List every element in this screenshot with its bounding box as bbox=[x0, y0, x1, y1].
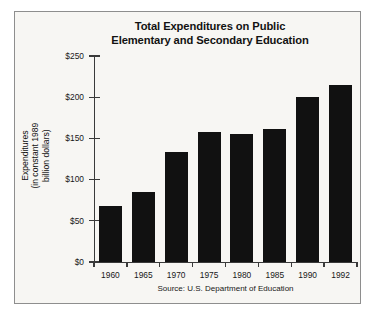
y-axis-tick-label: $0 bbox=[40, 258, 84, 266]
bar-1960 bbox=[99, 206, 122, 262]
y-axis-tick bbox=[89, 97, 100, 98]
source-note: Source: U.S. Department of Education bbox=[94, 284, 357, 293]
bar-1985 bbox=[263, 129, 286, 262]
y-axis-line bbox=[94, 56, 95, 263]
y-axis-tick-label: $200 bbox=[40, 93, 84, 101]
x-axis-tick bbox=[323, 262, 324, 267]
y-axis-tick-label: $150 bbox=[40, 134, 84, 142]
y-axis-tick bbox=[89, 55, 100, 56]
x-axis-tick bbox=[356, 262, 357, 267]
y-axis-tick-label: $100 bbox=[40, 175, 84, 183]
y-axis-title-line-2: (in constant 1989 bbox=[31, 104, 41, 208]
bar-1965 bbox=[132, 192, 155, 262]
x-axis-tick bbox=[225, 262, 226, 267]
bar-1992 bbox=[329, 85, 352, 262]
chart-figure-frame: Total Expenditures on Public Elementary … bbox=[14, 11, 361, 304]
y-axis-tick bbox=[89, 138, 100, 139]
y-axis-title-line-1: Expenditures bbox=[20, 104, 30, 208]
y-axis-tick-label: $250 bbox=[40, 52, 84, 60]
y-axis-title: Expenditures (in constant 1989 billion d… bbox=[20, 104, 51, 208]
y-axis-tick-label: $50 bbox=[40, 217, 84, 225]
x-axis-tick bbox=[159, 262, 160, 267]
x-axis-tick bbox=[258, 262, 259, 267]
bar-1975 bbox=[198, 132, 221, 262]
plot-area: Expenditures (in constant 1989 billion d… bbox=[15, 12, 362, 305]
y-axis-tick bbox=[89, 179, 100, 180]
x-axis-tick bbox=[126, 262, 127, 267]
x-axis-tick bbox=[192, 262, 193, 267]
bar-1990 bbox=[296, 97, 319, 262]
x-axis-tick bbox=[291, 262, 292, 267]
x-axis-tick bbox=[93, 262, 94, 267]
bar-1980 bbox=[230, 134, 253, 262]
bar-1970 bbox=[165, 152, 188, 262]
y-axis-title-line-3: billion dollars) bbox=[41, 104, 51, 208]
x-axis-tick-label: 1992 bbox=[321, 270, 361, 280]
